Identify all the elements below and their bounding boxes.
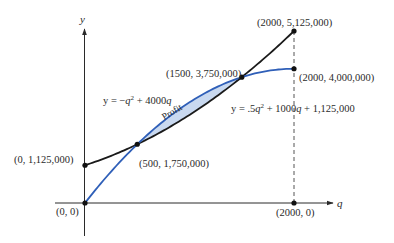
point-q-2000 xyxy=(291,200,296,205)
profit-region xyxy=(137,77,242,144)
cost-equation: y = .5q2 + 1000q + 1,125,000 xyxy=(231,102,355,114)
y-axis-label: y xyxy=(79,13,85,25)
label-q-2000: (2000, 0) xyxy=(276,207,315,219)
label-break-even-1: (500, 1,750,000) xyxy=(139,158,209,170)
x-axis-label: q xyxy=(337,197,343,209)
point-origin xyxy=(82,200,87,205)
label-revenue-end: (2000, 4,000,000) xyxy=(299,72,375,84)
label-cost-end: (2000, 5,125,000) xyxy=(257,17,333,29)
point-revenue-end xyxy=(291,66,296,71)
point-cost-end xyxy=(291,28,296,33)
label-origin: (0, 0) xyxy=(56,206,79,218)
label-break-even-2: (1500, 3,750,000) xyxy=(166,68,242,80)
point-break-even-1 xyxy=(135,142,140,147)
point-markers xyxy=(82,28,296,205)
label-cost-intercept: (0, 1,125,000) xyxy=(14,154,74,166)
profit-diagram: y q (0, 0) (0, 1,125,000) (500, 1,750,00… xyxy=(0,0,394,243)
point-cost-intercept xyxy=(82,163,87,168)
revenue-equation: y = −q2 + 4000q xyxy=(103,94,172,106)
revenue-curve xyxy=(85,69,294,203)
